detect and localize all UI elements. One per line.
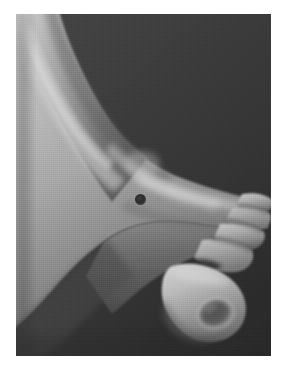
edge-darkening-left	[16, 14, 30, 356]
photograph-canvas	[16, 14, 271, 356]
lesion-marker	[135, 194, 146, 205]
photo-page	[0, 0, 292, 371]
edge-darkening-bottom	[16, 336, 271, 356]
clinical-photograph	[16, 14, 271, 356]
lateral-malleolus	[124, 151, 160, 177]
